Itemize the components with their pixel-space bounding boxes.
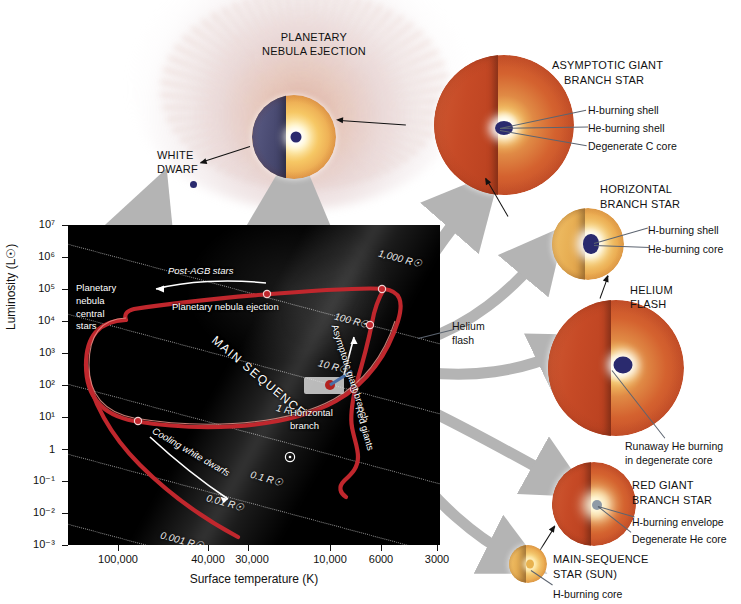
figure-canvas: 1,000 R☉ 100 R☉ 10 R☉ 1 R☉ 0.1 R☉ 0.01 R… — [0, 0, 741, 604]
helium-flash-line1: Helium — [452, 320, 485, 334]
he-flash-callout-line2: in degenerate core — [625, 454, 723, 468]
he-flash-title-line2: FLASH — [630, 297, 673, 311]
pn-central-line4: stars — [76, 320, 116, 333]
white-dwarf-line1: WHITE — [157, 148, 198, 162]
pn-central-line2: nebula — [76, 295, 116, 308]
ms-title-line1: MAIN-SEQUENCE — [553, 552, 649, 567]
helium-flash-line2: flash — [452, 334, 485, 348]
y-tick-label-10: 10⁻³ — [33, 538, 55, 551]
y-tick-label-9: 10⁻² — [33, 506, 55, 519]
label-helium-flash: Helium flash — [452, 320, 485, 347]
agb-title-line2: BRANCH STAR — [552, 73, 663, 88]
helium-flash-title: HELIUM FLASH — [630, 283, 673, 312]
white-dwarf-line2: DWARF — [157, 162, 198, 176]
white-dwarf-dot — [190, 181, 197, 188]
he-flash-callout-line1: Runaway He burning — [625, 440, 723, 454]
main-sequence-star-title: MAIN-SEQUENCE STAR (SUN) — [553, 552, 649, 582]
horizontal-branch-star-illustration — [552, 208, 624, 280]
hr-diagram-plot: 1,000 R☉ 100 R☉ 10 R☉ 1 R☉ 0.1 R☉ 0.01 R… — [68, 225, 440, 545]
pn-central-line3: central — [76, 308, 116, 321]
y-tick-label-7: 1 — [49, 443, 55, 455]
x-axis-label: Surface temperature (K) — [190, 572, 319, 586]
helium-flash-star-illustration — [548, 300, 684, 436]
helium-flash-callout: Runaway He burning in degenerate core — [625, 440, 723, 467]
y-tick-label-4: 10³ — [39, 346, 55, 358]
white-dwarf-label: WHITE DWARF — [157, 148, 198, 177]
hb-title-line1: HORIZONTAL — [600, 182, 680, 197]
y-axis-label: Luminosity (L☉) — [4, 244, 18, 330]
x-tick-label-1: 40,000 — [191, 553, 225, 565]
ms-callout-h-core: H-burning core — [553, 588, 622, 601]
x-tick-label-3: 10,000 — [313, 553, 347, 565]
rg-callout-he-core: Degenerate He core — [632, 533, 727, 546]
label-post-agb-stars: Post-AGB stars — [168, 265, 233, 276]
arrow-to-red-giant-star — [424, 408, 556, 478]
main-sequence-band — [68, 225, 440, 545]
x-tick-label-5: 3000 — [425, 553, 449, 565]
y-tick-label-0: 10⁷ — [39, 218, 55, 230]
pn-central-line1: Planetary — [76, 282, 116, 295]
red-giant-star-illustration — [552, 462, 636, 546]
hb-line2: branch — [290, 420, 333, 433]
agb-title-line1: ASYMPTOTIC GIANT — [552, 58, 663, 73]
agb-callout-he-shell: He-burning shell — [588, 122, 664, 135]
agb-callout-h-shell: H-burning shell — [588, 104, 659, 117]
arrow-to-helium-flash-star — [424, 352, 562, 374]
rg-title-line1: RED GIANT — [632, 478, 712, 493]
y-tick-label-3: 10⁴ — [38, 314, 55, 326]
x-tick-label-0: 100,000 — [98, 553, 138, 565]
agb-callout-c-core: Degenerate C core — [588, 140, 677, 153]
x-tick-label-2: 30,000 — [235, 553, 269, 565]
x-tick-label-4: 6000 — [369, 553, 393, 565]
hb-callout-he-core: He-burning core — [648, 243, 723, 256]
label-horizontal-branch: Horizontal branch — [290, 407, 333, 433]
horizontal-branch-star-title: HORIZONTAL BRANCH STAR — [600, 182, 680, 212]
y-tick-label-8: 10⁻¹ — [33, 474, 55, 487]
agb-star-title: ASYMPTOTIC GIANT BRANCH STAR — [552, 58, 663, 88]
rg-callout-h-envelope: H-burning envelope — [632, 516, 724, 529]
hb-title-line2: BRANCH STAR — [600, 197, 680, 212]
he-flash-title-line1: HELIUM — [630, 283, 673, 297]
hb-line1: Horizontal — [290, 407, 333, 420]
planetary-nebula-star-illustration — [252, 95, 336, 179]
y-tick-label-6: 10¹ — [39, 410, 55, 422]
pn-title-line1: PLANETARY — [262, 30, 366, 44]
label-pn-central-stars: Planetary nebula central stars — [76, 282, 116, 333]
planetary-nebula-title: PLANETARY NEBULA EJECTION — [262, 30, 366, 59]
y-tick-label-1: 10⁶ — [38, 250, 55, 262]
pn-title-line2: NEBULA EJECTION — [262, 44, 366, 58]
hb-callout-h-shell: H-burning shell — [648, 224, 719, 237]
label-pn-ejection: Planetary nebula ejection — [172, 301, 279, 312]
y-tick-label-5: 10² — [39, 378, 55, 390]
y-tick-label-2: 10⁵ — [38, 282, 55, 294]
rg-title-line2: BRANCH STAR — [632, 493, 712, 508]
ms-title-line2: STAR (SUN) — [553, 567, 649, 582]
red-giant-star-title: RED GIANT BRANCH STAR — [632, 478, 712, 508]
